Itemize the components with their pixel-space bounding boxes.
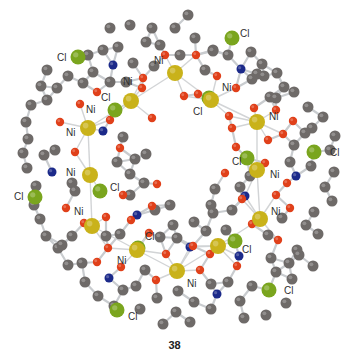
atom-highlight [290,141,294,145]
atom-highlight [94,89,97,92]
carbon-atom [155,40,166,51]
carbon-atom [165,200,176,211]
carbon-atom [257,59,268,70]
carbon-atom [125,169,136,180]
atom-highlight [166,201,170,205]
atom-highlight [331,132,335,136]
cl-label: Cl [145,231,154,242]
carbon-atom [98,45,109,56]
oxygen-atom [279,130,287,138]
atom-highlight [163,251,166,254]
atom-highlight [280,83,284,87]
atom-highlight [77,101,80,104]
carbon-atom [172,233,183,244]
atom-highlight [211,185,215,189]
nickel-atom [169,263,185,279]
oxygen-atom [238,195,246,203]
atom-highlight [193,52,196,55]
atom-highlight [19,149,23,153]
atom-highlight [99,46,103,50]
carbon-atom [221,225,232,236]
nickel-atom [252,211,268,227]
carbon-atom [63,260,74,271]
atom-highlight [213,241,219,247]
nickel-atom [249,162,265,178]
atom-highlight [239,196,242,199]
oxygen-atom [228,124,236,132]
carbon-atom [284,258,295,269]
nickel-atom [80,120,96,136]
atom-highlight [94,292,98,296]
oxygen-atom [148,114,156,122]
oxygen-atom [139,74,147,82]
atom-highlight [309,147,314,152]
atom-highlight [85,170,91,176]
atom-highlight [68,179,72,183]
atom-highlight [43,96,47,100]
atom-highlight [149,115,152,118]
atom-highlight [206,95,212,101]
nitrogen-atom [109,61,118,70]
chlorine-atom [240,151,255,166]
atom-highlight [273,192,276,195]
atom-highlight [142,150,146,154]
carbon-atom [246,47,257,58]
carbon-atom [285,157,296,168]
carbon-atom [21,117,32,128]
atom-highlight [154,181,157,184]
atom-highlight [222,226,226,230]
carbon-atom [140,265,151,276]
atom-highlight [307,162,311,166]
atom-highlight [148,24,152,28]
atom-highlight [290,118,293,121]
oxygen-atom [232,143,240,151]
atom-highlight [314,230,318,234]
atom-highlight [153,294,157,298]
atom-highlight [195,91,198,94]
carbon-atom [330,131,341,142]
carbon-atom [118,132,129,143]
atom-highlight [140,75,143,78]
carbon-atom [235,296,246,307]
atom-highlight [262,160,265,163]
ni-label: Ni [117,255,126,266]
atom-highlight [309,262,313,266]
carbon-atom [105,77,116,88]
nitrogen-atom [213,290,222,299]
nickel-atom [210,238,226,254]
atom-highlight [267,254,271,258]
atom-highlight [37,82,41,86]
atom-highlight [36,215,40,219]
atom-highlight [102,232,106,236]
atom-highlight [136,305,140,309]
molecular-structure-figure: NiNiNiNiNiNiNiNiNiNiNiNiClClClClClClClCl… [0,0,349,363]
oxygen-atom [194,90,202,98]
nickel-atom [203,92,219,108]
atom-highlight [126,170,130,174]
atom-highlight [57,119,60,122]
oxygen-atom [286,204,294,212]
oxygen-atom [213,72,221,80]
atom-highlight [156,41,160,45]
atom-highlight [295,251,299,255]
atom-highlight [140,179,144,183]
carbon-atom [306,161,317,172]
carbon-atom [200,65,211,76]
carbon-atom [189,297,200,308]
atom-highlight [32,182,36,186]
atom-highlight [230,236,235,241]
atom-highlight [273,107,276,110]
atom-highlight [190,243,193,246]
atom-highlight [285,259,289,263]
atom-highlight [184,11,188,15]
atom-highlight [293,246,297,250]
ni-label: Ni [154,55,163,66]
atom-highlight [126,21,130,25]
atom-highlight [242,153,247,158]
atom-highlight [214,73,217,76]
carbon-atom [303,102,314,113]
oxygen-atom [62,204,70,212]
atom-highlight [262,311,266,315]
carbon-atom [189,217,200,228]
atom-highlight [132,245,138,251]
